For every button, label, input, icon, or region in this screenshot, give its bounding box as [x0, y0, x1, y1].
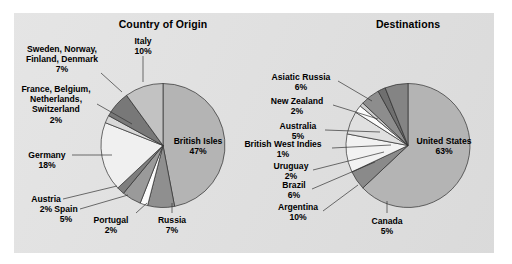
label-uruguay-name: Uruguay — [268, 161, 314, 171]
label-new-zealand-name: New Zealand — [263, 96, 331, 106]
label-united-states-name: United States — [404, 136, 484, 146]
leader-portugal — [136, 203, 147, 213]
label-argentina-value: 10% — [272, 212, 324, 222]
leader-spain — [80, 195, 128, 209]
label-brazil-name: Brazil — [276, 180, 312, 190]
label-british-isles-value: 47% — [162, 146, 234, 156]
label-italy-value: 10% — [122, 46, 164, 56]
label-spain-value: 5% — [50, 214, 82, 224]
page-title-origin: Country of Origin — [100, 18, 226, 30]
label-bwi-value: 1% — [236, 149, 330, 159]
label-argentina-name: Argentina — [272, 202, 324, 212]
label-portugal-value: 2% — [88, 225, 134, 235]
label-united-states: United States 63% — [404, 136, 484, 157]
label-british-isles: British Isles 47% — [162, 136, 234, 157]
label-uruguay: Uruguay 2% — [268, 161, 314, 181]
figure-root: British Isles 47%Russia 7%Portugal 2%Spa… — [0, 0, 512, 264]
label-new-zealand: New Zealand 2% — [263, 96, 331, 116]
label-france-belgium-netherlands-switzerland: France, Belgium, Netherlands, Switzerlan… — [14, 84, 98, 125]
leader-austria — [63, 186, 117, 199]
label-germany-value: 18% — [22, 160, 72, 170]
label-austria-name: Austria — [28, 194, 64, 204]
leader-argentina — [323, 185, 358, 211]
label-france-value: 2% — [14, 115, 98, 125]
label-british-west-indies: British West Indies 1% — [236, 139, 330, 159]
label-asiatic-russia-name: Asiatic Russia — [265, 72, 337, 82]
page-title-destinations: Destinations — [345, 18, 471, 30]
label-russia: Russia 7% — [150, 215, 194, 235]
label-united-states-value: 63% — [404, 146, 484, 156]
label-portugal: Portugal 2% — [88, 215, 134, 235]
label-italy: Italy 10% — [122, 36, 164, 56]
label-sweden-norway-finland-denmark: Sweden, Norway, Finland, Denmark 7% — [18, 44, 106, 75]
label-argentina: Argentina 10% — [272, 202, 324, 222]
label-canada-name: Canada — [365, 216, 409, 226]
label-france-line2: Netherlands, — [14, 94, 98, 104]
label-bwi-name: British West Indies — [236, 139, 330, 149]
label-portugal-name: Portugal — [88, 215, 134, 225]
label-germany-name: Germany — [22, 150, 72, 160]
label-spain: Spain 5% — [50, 204, 82, 224]
label-australia-name: Australia — [273, 121, 323, 131]
label-asiatic-russia: Asiatic Russia 6% — [265, 72, 337, 92]
leader-asiatic-russia — [338, 81, 372, 101]
label-france-line3: Switzerland — [14, 104, 98, 114]
label-brazil-value: 6% — [276, 190, 312, 200]
label-canada: Canada 5% — [365, 216, 409, 236]
label-asiatic-russia-value: 6% — [265, 82, 337, 92]
label-russia-name: Russia — [150, 215, 194, 225]
label-italy-name: Italy — [122, 36, 164, 46]
label-canada-value: 5% — [365, 226, 409, 236]
label-germany: Germany 18% — [22, 150, 72, 170]
label-brazil: Brazil 6% — [276, 180, 312, 200]
label-france-line1: France, Belgium, — [14, 84, 98, 94]
label-british-isles-name: British Isles — [162, 136, 234, 146]
leader-sweden — [101, 73, 122, 92]
label-sweden-line1: Sweden, Norway, — [18, 44, 106, 54]
label-spain-name: Spain — [50, 204, 82, 214]
label-sweden-value: 7% — [18, 64, 106, 74]
label-sweden-line2: Finland, Denmark — [18, 54, 106, 64]
label-russia-value: 7% — [150, 225, 194, 235]
label-new-zealand-value: 2% — [263, 106, 331, 116]
